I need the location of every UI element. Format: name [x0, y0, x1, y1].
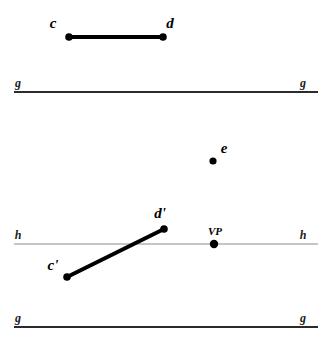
ground-line-bottom-label-left: g [14, 311, 21, 325]
point-c-prime-label: c' [48, 257, 59, 273]
point-c-prime-dot [63, 273, 71, 281]
canvas-background [0, 0, 330, 345]
point-c-dot [65, 33, 73, 41]
ground-line-top-label-left: g [14, 76, 21, 90]
horizon-line-label-right: h [300, 228, 307, 242]
point-c-label: c [50, 15, 57, 31]
point-e-dot [209, 157, 216, 164]
point-d-prime-label: d' [154, 205, 166, 221]
vanishing-point-label: VP [208, 225, 222, 237]
ground-line-top-label-right: g [299, 76, 306, 90]
ground-line-bottom-label-right: g [299, 311, 306, 325]
perspective-diagram: g g h h g g c d e [0, 0, 330, 345]
point-d-prime-dot [160, 225, 168, 233]
horizon-line-label-left: h [15, 228, 22, 242]
vanishing-point-dot [210, 240, 218, 248]
diagram-canvas: g g h h g g c d e [0, 0, 330, 345]
point-d-label: d [166, 15, 174, 31]
point-e-label: e [221, 140, 228, 156]
point-d-dot [159, 33, 167, 41]
